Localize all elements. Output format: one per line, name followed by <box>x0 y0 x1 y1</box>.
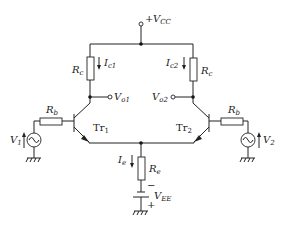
vo1-label: Vo1 <box>114 91 130 104</box>
vcc-terminal <box>139 22 143 44</box>
v2-arrow-icon <box>257 132 261 148</box>
v1-source-icon <box>27 133 41 147</box>
v1-label: V1 <box>10 134 22 147</box>
rb-left-label: Rb <box>45 104 59 117</box>
v2-label: V2 <box>263 134 275 147</box>
vee-battery-icon <box>133 192 149 197</box>
rb-right-label: Rb <box>227 104 241 117</box>
ic1-arrow-icon <box>97 57 101 70</box>
vcc-label: VCC <box>153 13 172 26</box>
tr2-transistor-icon <box>193 103 209 143</box>
rb-right-resistor <box>221 118 243 125</box>
ground-icon <box>26 158 41 162</box>
ic1-label: Ic1 <box>103 57 116 70</box>
vo1-terminal <box>108 95 112 99</box>
tr1-label: Tr1 <box>93 122 109 135</box>
re-label: Re <box>148 163 161 176</box>
circuit-diagram: + VCC Rc Ic1 Vo1 Tr1 Rb <box>0 0 281 230</box>
rb-left-resistor <box>40 118 62 125</box>
tr1-transistor-icon <box>74 103 90 143</box>
rc-right-resistor <box>190 58 197 81</box>
junction-dot <box>139 42 143 46</box>
ie-label: Ie <box>117 154 126 167</box>
ic2-arrow-icon <box>182 57 186 70</box>
ground-icon <box>133 211 148 215</box>
ie-arrow-icon <box>130 155 134 168</box>
ground-icon <box>240 158 255 162</box>
rc-right-label: Rc <box>200 65 213 78</box>
vo2-label: Vo2 <box>152 91 168 104</box>
vo2-terminal <box>171 95 175 99</box>
rc-left-label: Rc <box>71 64 84 77</box>
v1-arrow-icon <box>22 132 26 148</box>
v2-source-icon <box>241 133 255 147</box>
ic2-label: Ic2 <box>165 57 179 70</box>
tr2-label: Tr2 <box>176 122 192 135</box>
rc-left-resistor <box>87 57 94 80</box>
vee-label: VEE <box>154 190 171 203</box>
re-resistor <box>138 157 145 180</box>
